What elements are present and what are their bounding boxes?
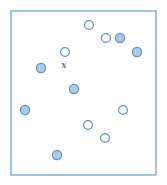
scatter-figure: x	[0, 0, 167, 185]
plot-background	[0, 0, 167, 185]
plot-canvas: x	[0, 0, 167, 185]
data-point-hollow-h3	[61, 48, 70, 57]
data-point-hollow-h5	[84, 121, 93, 130]
data-point-hollow-h6	[101, 134, 110, 143]
data-point-filled-f3	[36, 63, 45, 72]
data-point-hollow-h4	[119, 106, 128, 115]
data-point-filled-f4	[69, 84, 78, 93]
data-point-filled-f1	[115, 33, 124, 42]
data-point-filled-f6	[52, 150, 61, 159]
data-point-filled-f2	[132, 47, 141, 56]
query-point-label: x	[61, 59, 67, 70]
data-point-hollow-h1	[85, 21, 94, 30]
data-point-hollow-h2	[102, 34, 111, 43]
annotation-group: x	[61, 59, 67, 70]
data-point-filled-f5	[20, 105, 29, 114]
